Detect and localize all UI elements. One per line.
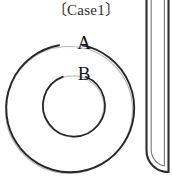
- diagram-canvas: [0, 0, 172, 186]
- u-tube-inner-wall: [151, 0, 164, 166]
- inner-ring-label: B: [0, 64, 170, 83]
- case1-diagram: 〔Case1〕 A B: [0, 0, 172, 186]
- u-tube-outer-wall: [146, 0, 168, 172]
- case-title: 〔Case1〕: [0, 3, 172, 18]
- outer-ring-label: A: [0, 33, 170, 52]
